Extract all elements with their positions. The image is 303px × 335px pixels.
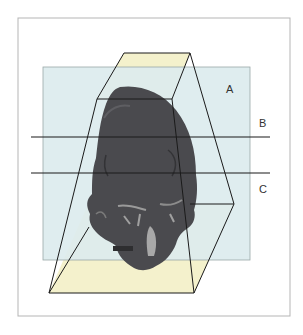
label-b: B <box>259 117 266 129</box>
label-c: C <box>259 183 267 195</box>
label-a: A <box>226 83 234 95</box>
anatomical-diagram: A B C <box>0 0 303 335</box>
